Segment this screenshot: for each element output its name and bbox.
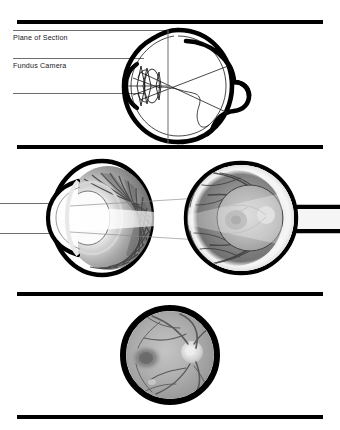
bottom-rule bbox=[17, 415, 323, 419]
panel-schematic: Plane of Section Fundus Camera bbox=[0, 0, 340, 145]
reflex-fleck bbox=[148, 379, 156, 385]
optic-nerve-stub bbox=[234, 82, 249, 96]
cutaway-eye-drawing bbox=[0, 145, 340, 292]
schematic-eye-drawing bbox=[0, 0, 340, 145]
figure-root: Plane of Section Fundus Camera bbox=[0, 0, 340, 430]
fovea bbox=[139, 352, 153, 364]
ray-lower-to-upper bbox=[140, 66, 228, 100]
optic-cup bbox=[185, 346, 195, 356]
ray-upper-to-lower bbox=[140, 72, 228, 113]
panel-fundus-photo bbox=[0, 292, 340, 415]
panel-cutaway bbox=[0, 145, 340, 292]
posterior-segment-globe bbox=[186, 163, 340, 273]
fundus-photograph-drawing bbox=[0, 292, 340, 415]
sclera-outline bbox=[178, 30, 249, 130]
